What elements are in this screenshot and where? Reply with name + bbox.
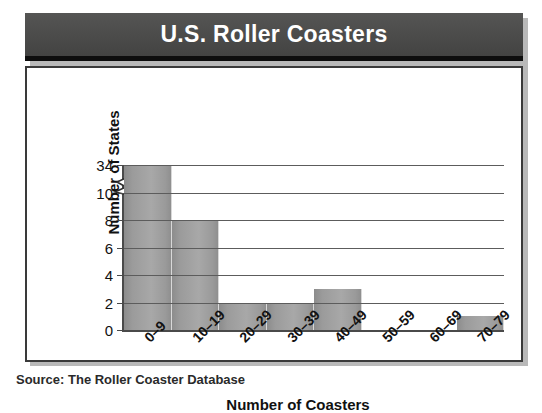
- y-axis-tick-label: 0: [105, 322, 113, 339]
- x-axis-title: Number of Coasters: [27, 396, 542, 413]
- y-axis-tick: [117, 275, 124, 276]
- y-axis-tick: [117, 165, 124, 166]
- y-axis-tick-label: 10: [96, 184, 113, 201]
- chart-panel: Number of States 341086420 0–910–1920–29…: [25, 66, 523, 362]
- grid-line: [124, 248, 504, 249]
- y-axis-tick-label: 6: [105, 239, 113, 256]
- grid-line: [124, 220, 504, 221]
- y-axis-tick: [117, 248, 124, 249]
- y-axis-tick-label: 2: [105, 294, 113, 311]
- y-axis-tick-label: 8: [105, 212, 113, 229]
- y-axis-tick: [117, 330, 124, 331]
- source-caption: Source: The Roller Coaster Database: [16, 372, 245, 387]
- y-axis-tick-label: 4: [105, 267, 113, 284]
- grid-line: [124, 303, 504, 304]
- grid-line: [124, 275, 504, 276]
- grid-line: [124, 165, 504, 166]
- y-axis-tick: [117, 193, 124, 194]
- y-axis-tick: [117, 220, 124, 221]
- grid-line: [124, 193, 504, 194]
- chart-title-banner: U.S. Roller Coasters: [25, 13, 523, 61]
- chart-title: U.S. Roller Coasters: [160, 23, 387, 46]
- y-axis-tick-label: 34: [96, 157, 113, 174]
- y-axis-tick: [117, 303, 124, 304]
